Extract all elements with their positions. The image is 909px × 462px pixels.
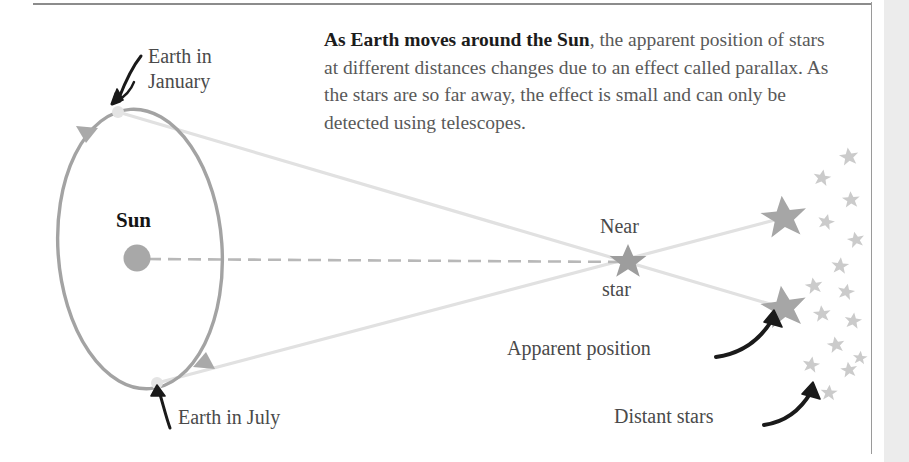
caption-paragraph: As Earth moves around the Sun, the appar… <box>324 26 840 136</box>
label-earth-in-january-line2: January <box>148 70 210 92</box>
sun-star-axis-dashed <box>148 259 632 262</box>
sight-lines <box>118 112 790 383</box>
label-earth-in-january: Earth inJanuary <box>148 44 212 94</box>
orbit-direction-arrow-top <box>76 126 98 143</box>
earth-january-marker <box>112 106 124 118</box>
label-near-star-line1: Near <box>600 214 639 239</box>
earth-july-arrow <box>151 385 170 428</box>
distant-star-field <box>801 146 868 400</box>
label-distant-stars: Distant stars <box>614 404 713 429</box>
apparent-position-star-upper <box>759 193 809 238</box>
label-earth-in-january-line1: Earth in <box>148 45 212 67</box>
near-star <box>610 244 647 277</box>
label-near-star-line2: star <box>602 277 631 302</box>
earth-january-arrow <box>112 56 141 104</box>
figure-page: As Earth moves around the Sun, the appar… <box>0 0 909 462</box>
sun-body <box>124 245 151 272</box>
distant-stars-arrow <box>764 382 820 425</box>
label-sun: Sun <box>116 208 151 233</box>
label-apparent-position: Apparent position <box>507 336 651 361</box>
apparent-position-arrow <box>716 310 782 357</box>
label-earth-in-july: Earth in July <box>178 405 280 430</box>
caption-bold-lead: As Earth moves around the Sun <box>324 29 590 50</box>
sight-line-july <box>157 216 790 383</box>
page-divider-line <box>871 2 872 454</box>
right-side-band <box>884 0 909 462</box>
